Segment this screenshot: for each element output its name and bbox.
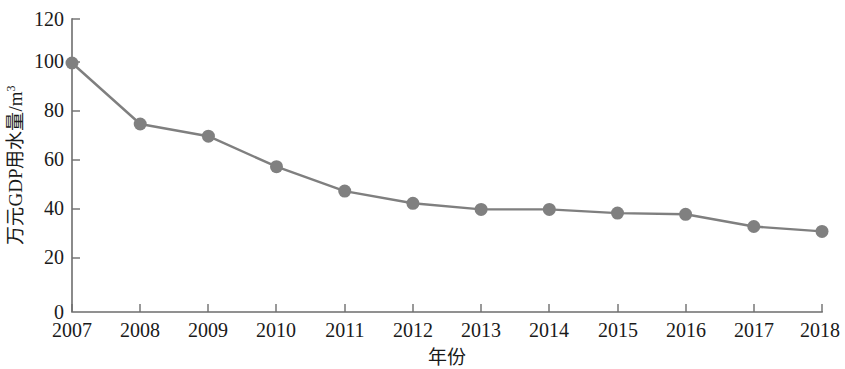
data-point-2016 (679, 208, 692, 221)
x-tick-label-2009: 2009 (188, 319, 228, 341)
y-tick-label-20: 20 (44, 246, 64, 268)
y-tick-label-100: 100 (34, 50, 64, 72)
y-tick-label-120: 120 (34, 8, 64, 30)
data-point-2010 (270, 160, 283, 173)
data-point-2013 (475, 203, 488, 216)
x-tick-label-2015: 2015 (598, 319, 638, 341)
data-point-2009 (202, 130, 215, 143)
svg-text:万元GDP用水量/m3: 万元GDP用水量/m3 (4, 85, 26, 244)
chart-background (0, 0, 845, 369)
x-tick-label-2013: 2013 (461, 319, 501, 341)
data-point-2008 (134, 118, 147, 131)
data-point-2015 (611, 207, 624, 220)
x-axis-title: 年份 (428, 347, 466, 368)
x-tick-label-2008: 2008 (120, 319, 160, 341)
x-tick-label-2012: 2012 (393, 319, 433, 341)
x-tick-label-2014: 2014 (529, 319, 569, 341)
y-tick-label-60: 60 (44, 148, 64, 170)
y-tick-label-80: 80 (44, 99, 64, 121)
data-point-2017 (747, 220, 760, 233)
x-tick-label-2017: 2017 (734, 319, 774, 341)
x-tick-label-2010: 2010 (256, 319, 296, 341)
chart-canvas: 120 100 80 60 40 20 0 (0, 0, 845, 369)
data-point-2018 (816, 225, 829, 238)
data-point-2011 (338, 185, 351, 198)
y-axis-title-superscript: 3 (4, 85, 18, 91)
line-chart: 120 100 80 60 40 20 0 (0, 0, 845, 369)
y-tick-label-40: 40 (44, 197, 64, 219)
x-tick-label-2007: 2007 (52, 319, 92, 341)
x-tick-label-2011: 2011 (325, 319, 364, 341)
y-axis-title-text: 万元GDP用水量/m (5, 91, 26, 244)
x-tick-label-2018: 2018 (800, 319, 840, 341)
data-point-2007 (66, 57, 79, 70)
y-axis-title: 万元GDP用水量/m3 (4, 85, 26, 244)
x-tick-label-2016: 2016 (666, 319, 706, 341)
data-point-2014 (543, 203, 556, 216)
data-point-2012 (406, 197, 419, 210)
